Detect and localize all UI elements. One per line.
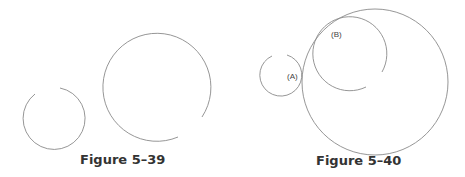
label-a: (A) [287, 72, 298, 81]
figure-5-40-caption: Figure 5–40 [316, 153, 401, 168]
fig39-small-arc [23, 88, 85, 149]
fig40-circle-b-arc [313, 17, 387, 91]
fig39-large-arc [103, 33, 211, 141]
figure-5-39-caption: Figure 5–39 [80, 152, 165, 167]
label-b: (B) [331, 30, 342, 39]
fig40-big-circle [302, 9, 448, 155]
figures-canvas: (A) (B) [0, 0, 465, 177]
